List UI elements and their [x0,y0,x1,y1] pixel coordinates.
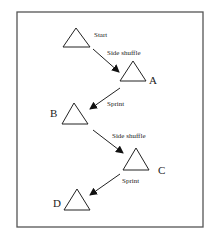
cone-d-icon [64,189,90,210]
station-label-a: A [149,74,157,86]
cone-b-icon [62,103,88,124]
station-label-d: D [53,197,61,209]
station-label-start: Start [94,31,107,39]
arrow-c-to-d [90,174,120,195]
cone-start-icon [63,28,90,47]
drill-diagram: Start Side shuffle A Sprint B Side shuff… [0,0,215,233]
station-label-b: B [50,107,57,119]
cone-c-icon [123,148,149,170]
movement-label-3: Side shuffle [112,132,146,140]
diagram-frame [17,12,203,227]
station-label-c: C [158,164,165,176]
movement-label-1: Side shuffle [107,49,141,57]
movement-label-4: Sprint [122,177,139,185]
movement-label-2: Sprint [107,100,124,108]
cone-a-icon [120,61,146,81]
